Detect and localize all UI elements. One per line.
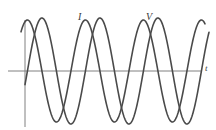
current-curve-label: I [78, 12, 81, 22]
waveform-figure: I V t [0, 0, 216, 130]
x-axis-label: t [205, 64, 208, 73]
voltage-curve-label: V [146, 12, 152, 22]
plot-canvas [0, 0, 216, 130]
